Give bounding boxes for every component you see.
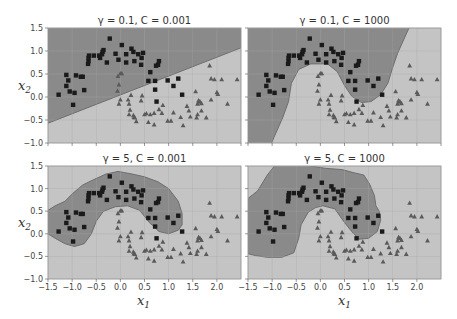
square-marker — [272, 91, 276, 95]
square-marker — [116, 195, 120, 199]
square-marker — [339, 193, 343, 197]
square-marker — [105, 60, 109, 64]
square-marker — [71, 239, 75, 243]
square-marker — [287, 53, 291, 57]
square-marker — [354, 236, 358, 240]
square-marker — [256, 93, 260, 97]
square-marker — [274, 73, 278, 77]
square-marker — [87, 191, 91, 195]
square-marker — [264, 221, 268, 225]
square-marker — [153, 79, 157, 83]
square-marker — [180, 229, 184, 233]
square-marker — [346, 79, 350, 83]
square-marker — [305, 60, 309, 64]
square-marker — [139, 56, 143, 60]
square-marker — [101, 185, 105, 189]
square-marker — [281, 75, 285, 79]
square-marker — [341, 51, 345, 55]
square-marker — [365, 215, 369, 219]
square-marker — [348, 207, 352, 211]
square-marker — [146, 216, 150, 220]
square-marker — [271, 239, 275, 243]
square-marker — [81, 75, 85, 79]
square-marker — [72, 228, 76, 232]
square-marker — [113, 189, 117, 193]
square-marker — [324, 60, 328, 64]
square-marker — [153, 224, 157, 228]
ytick-label: 1.5 — [30, 24, 43, 33]
xtick-label: 0.5 — [338, 283, 351, 292]
square-marker — [113, 52, 117, 56]
square-marker — [272, 228, 276, 232]
square-marker — [148, 207, 152, 211]
square-marker — [66, 78, 70, 82]
xtick-label: 1.5 — [186, 283, 199, 292]
xtick-label: 0.5 — [138, 283, 151, 292]
square-marker — [339, 63, 343, 67]
square-marker — [308, 36, 312, 40]
square-marker — [139, 193, 143, 197]
ytick-label: 1.5 — [30, 162, 43, 171]
square-marker — [354, 99, 358, 103]
square-marker — [324, 190, 328, 194]
square-marker — [376, 76, 380, 80]
figure: γ = 0.1, C = 0.001−1.0−0.50.00.51.01.5γ … — [0, 0, 457, 319]
subplot-top-right: γ = 0.1, C = 1000 — [245, 15, 441, 148]
square-marker — [165, 215, 169, 219]
square-marker — [74, 73, 78, 77]
square-marker — [339, 56, 343, 60]
ytick-label: 0.0 — [30, 230, 43, 239]
square-marker — [357, 59, 361, 63]
xtick-label: −1.5 — [38, 283, 57, 292]
square-marker — [292, 53, 296, 57]
square-marker — [320, 43, 324, 47]
square-marker — [92, 191, 96, 195]
square-marker — [131, 50, 135, 54]
ytick-label: −1.0 — [24, 139, 43, 148]
square-marker — [74, 210, 78, 214]
square-marker — [148, 70, 152, 74]
square-marker — [331, 50, 335, 54]
ytick-label: 0.0 — [30, 93, 43, 102]
square-marker — [371, 221, 375, 225]
ytick-label: 1.0 — [30, 185, 43, 194]
square-marker — [320, 181, 324, 185]
square-marker — [264, 84, 268, 88]
square-marker — [301, 185, 305, 189]
square-marker — [268, 89, 272, 93]
square-marker — [341, 188, 345, 192]
square-marker — [308, 174, 312, 178]
square-marker — [274, 210, 278, 214]
square-marker — [339, 200, 343, 204]
square-marker — [266, 215, 270, 219]
square-marker — [87, 53, 91, 57]
square-marker — [180, 93, 184, 97]
xtick-label: −0.5 — [287, 283, 306, 292]
square-marker — [357, 196, 361, 200]
xtick-label: 0.0 — [114, 283, 127, 292]
square-marker — [139, 200, 143, 204]
square-marker — [371, 84, 375, 88]
subplot-top-left: γ = 0.1, C = 0.001−1.0−0.50.00.51.01.5 — [24, 15, 241, 148]
square-marker — [68, 89, 72, 93]
square-marker — [266, 78, 270, 82]
square-marker — [282, 88, 286, 92]
square-marker — [141, 188, 145, 192]
square-marker — [124, 190, 128, 194]
square-marker — [139, 63, 143, 67]
square-marker — [292, 191, 296, 195]
square-marker — [376, 214, 380, 218]
square-marker — [81, 212, 85, 216]
square-marker — [153, 216, 157, 220]
square-marker — [176, 76, 180, 80]
xtick-label: −1.5 — [238, 283, 257, 292]
square-marker — [92, 53, 96, 57]
square-marker — [313, 52, 317, 56]
xlabel-right: x1 — [338, 293, 351, 310]
square-marker — [176, 214, 180, 218]
xtick-label: 0.0 — [314, 283, 327, 292]
square-marker — [154, 99, 158, 103]
square-marker — [380, 229, 384, 233]
square-marker — [66, 215, 70, 219]
square-marker — [116, 58, 120, 62]
